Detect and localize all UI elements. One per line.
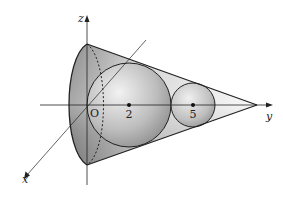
- y-axis-label: y: [265, 110, 273, 123]
- small-sphere-center-point: [191, 103, 195, 107]
- cone-spheres-diagram: z y x O 2 5: [0, 0, 283, 199]
- z-axis-arrow-icon: [85, 15, 90, 22]
- origin-label: O: [90, 107, 99, 120]
- diagram-canvas: z y x O 2 5: [0, 0, 283, 199]
- large-sphere-center-point: [127, 103, 131, 107]
- large-sphere-center-label: 2: [126, 108, 133, 121]
- z-axis-label: z: [77, 12, 84, 25]
- small-sphere-center-label: 5: [190, 108, 197, 121]
- x-axis-label: x: [22, 173, 29, 186]
- y-axis-arrow-icon: [266, 103, 273, 108]
